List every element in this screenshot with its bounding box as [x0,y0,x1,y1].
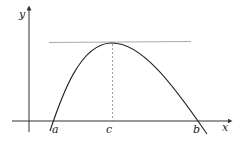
diagram-canvas: y x a c b [0,0,241,142]
horizontal-tangent-line [49,42,191,43]
curve [50,43,207,134]
point-b-label: b [193,123,200,136]
x-axis-label: x [222,121,229,134]
point-c-label: c [106,123,112,136]
point-a-label: a [52,123,59,136]
y-axis-label: y [18,8,26,21]
